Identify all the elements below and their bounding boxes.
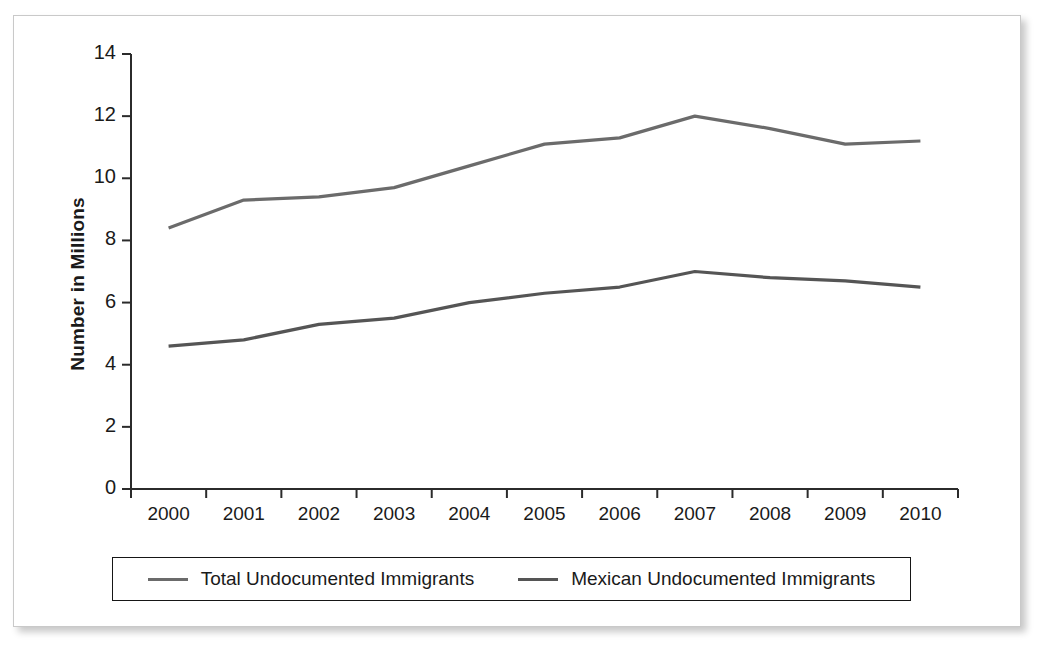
legend-entry-total: Total Undocumented Immigrants (148, 568, 475, 590)
y-tick-label: 0 (70, 476, 116, 499)
x-axis-ticks (131, 489, 958, 498)
y-axis-ticks (122, 54, 131, 489)
series-line-total (169, 116, 921, 228)
y-tick-label: 14 (70, 41, 116, 64)
x-tick-label: 2001 (207, 503, 281, 525)
x-tick-label: 2005 (508, 503, 582, 525)
y-tick-label: 8 (70, 227, 116, 250)
chart-plot-svg (14, 16, 1022, 628)
y-tick-label: 12 (70, 103, 116, 126)
chart-legend: Total Undocumented Immigrants Mexican Un… (112, 557, 911, 601)
x-tick-label: 2007 (658, 503, 732, 525)
legend-entry-mexican: Mexican Undocumented Immigrants (518, 568, 875, 590)
y-tick-label: 6 (70, 290, 116, 313)
x-tick-label: 2004 (432, 503, 506, 525)
figure-root: Number in Millions 02468101214 200020012… (0, 0, 1043, 663)
series-line-mexican (169, 272, 921, 347)
x-tick-label: 2010 (883, 503, 957, 525)
x-tick-label: 2009 (808, 503, 882, 525)
y-tick-label: 2 (70, 414, 116, 437)
x-tick-label: 2002 (282, 503, 356, 525)
legend-label-mexican: Mexican Undocumented Immigrants (571, 568, 875, 590)
legend-line-icon-total (148, 578, 188, 581)
x-tick-label: 2006 (583, 503, 657, 525)
x-tick-label: 2000 (132, 503, 206, 525)
x-tick-label: 2008 (733, 503, 807, 525)
legend-label-total: Total Undocumented Immigrants (201, 568, 475, 590)
y-tick-label: 10 (70, 165, 116, 188)
line-chart: Number in Millions 02468101214 200020012… (14, 16, 1022, 628)
y-tick-label: 4 (70, 352, 116, 375)
legend-line-icon-mexican (518, 578, 558, 581)
x-tick-label: 2003 (357, 503, 431, 525)
chart-frame: Number in Millions 02468101214 200020012… (13, 15, 1021, 627)
